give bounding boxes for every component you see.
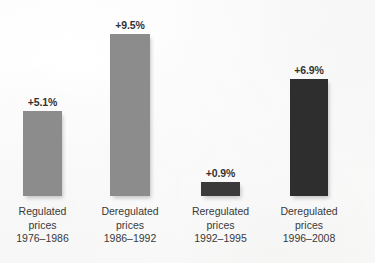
bar-rect-2 bbox=[110, 34, 150, 196]
bar-category-label-4-line1: Deregulated bbox=[254, 205, 364, 219]
bar-category-label-4: Deregulated prices 1996–2008 bbox=[254, 205, 364, 246]
bar-rect-4 bbox=[290, 79, 328, 196]
bar-value-label-4: +6.9% bbox=[294, 64, 324, 76]
bar-group-2: +9.5% Deregulated prices 1986–1992 bbox=[110, 34, 150, 196]
bar-group-4: +6.9% Deregulated prices 1996–2008 bbox=[290, 79, 328, 196]
bar-group-3: +0.9% Reregulated prices 1992–1995 bbox=[201, 182, 240, 196]
bar-value-label-3: +0.9% bbox=[206, 167, 236, 179]
bar-rect-1 bbox=[23, 111, 62, 196]
bar-rect-3 bbox=[201, 182, 240, 196]
bar-category-label-4-line2: prices bbox=[254, 219, 364, 233]
bar-value-label-1: +5.1% bbox=[28, 96, 58, 108]
bar-category-label-4-line3: 1996–2008 bbox=[254, 232, 364, 246]
bar-chart: +5.1% Regulated prices 1976–1986 +9.5% D… bbox=[0, 0, 375, 263]
bar-value-label-2: +9.5% bbox=[115, 19, 145, 31]
bar-group-1: +5.1% Regulated prices 1976–1986 bbox=[23, 111, 62, 196]
plot-area: +5.1% Regulated prices 1976–1986 +9.5% D… bbox=[0, 0, 375, 263]
